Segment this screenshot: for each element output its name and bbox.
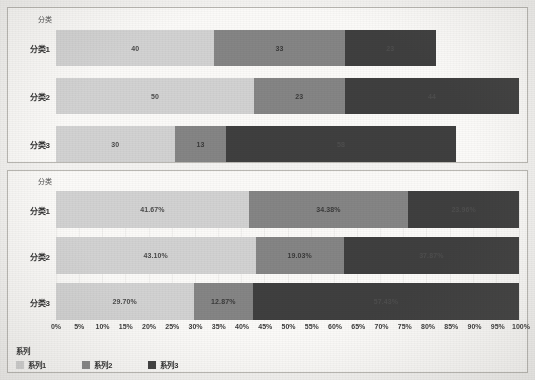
bar-segment-series1[interactable]: 43.10% xyxy=(56,237,256,274)
x-axis-tick: 35% xyxy=(212,323,226,330)
bar-segment-series3[interactable]: 23 xyxy=(345,30,436,66)
stacked-bar: 403323 xyxy=(56,30,436,66)
x-axis-tick: 30% xyxy=(188,323,202,330)
bar-row[interactable]: 分类1403323 xyxy=(56,30,519,66)
x-axis-tick: 75% xyxy=(398,323,412,330)
bar-segment-value: 50 xyxy=(151,93,159,100)
stacked-bar: 41.67%34.38%23.96% xyxy=(56,191,519,228)
bar-row[interactable]: 分类2502344 xyxy=(56,78,519,114)
plot-area-absolute: 分类1403323分类2502344分类3301358 xyxy=(56,30,519,156)
legend-swatch-icon xyxy=(148,361,156,369)
category-axis-title-top: 分类 xyxy=(38,14,53,24)
bar-segment-value: 40 xyxy=(131,45,139,52)
bar-segment-series2[interactable]: 23 xyxy=(254,78,345,114)
category-axis-title-bottom: 分类 xyxy=(38,176,53,186)
legend-label: 系列1 xyxy=(28,359,46,370)
bar-segment-value: 34.38% xyxy=(316,206,340,213)
legend-label: 系列3 xyxy=(160,359,178,370)
category-label: 分类1 xyxy=(10,205,50,216)
x-axis-tick: 70% xyxy=(374,323,388,330)
category-label: 分类3 xyxy=(10,139,50,150)
x-axis-tick: 50% xyxy=(281,323,295,330)
bar-segment-series2[interactable]: 12.87% xyxy=(194,283,254,320)
bar-segment-series3[interactable]: 44 xyxy=(345,78,519,114)
bar-segment-value: 23 xyxy=(386,45,394,52)
bar-segment-value: 33 xyxy=(276,45,284,52)
x-axis-tick: 25% xyxy=(165,323,179,330)
stacked-bar: 301358 xyxy=(56,126,456,162)
x-axis-tick: 40% xyxy=(235,323,249,330)
x-axis-tick: 5% xyxy=(74,323,84,330)
bar-row[interactable]: 分类329.70%12.87%57.43% xyxy=(56,283,519,320)
bar-segment-series2[interactable]: 19.03% xyxy=(256,237,344,274)
gridline xyxy=(519,191,520,321)
x-axis-tick: 85% xyxy=(444,323,458,330)
bar-segment-value: 23 xyxy=(295,93,303,100)
x-axis-ticks: 0%5%10%15%20%25%30%35%40%45%50%55%60%65%… xyxy=(8,323,527,337)
category-label: 分类2 xyxy=(10,251,50,262)
bar-segment-value: 37.87% xyxy=(419,252,443,259)
legend-item-series3[interactable]: 系列3 xyxy=(148,359,178,370)
bar-segment-series2[interactable]: 33 xyxy=(214,30,345,66)
legend-swatch-icon xyxy=(16,361,24,369)
bar-segment-value: 57.43% xyxy=(374,298,398,305)
bar-segment-value: 41.67% xyxy=(140,206,164,213)
legend-label: 系列2 xyxy=(94,359,112,370)
chart-panel-percent: 分类 分类141.67%34.38%23.96%分类243.10%19.03%3… xyxy=(7,170,528,373)
x-axis-tick: 55% xyxy=(305,323,319,330)
x-axis-tick: 10% xyxy=(95,323,109,330)
bar-segment-value: 30 xyxy=(111,141,119,148)
x-axis-tick: 80% xyxy=(421,323,435,330)
bar-row[interactable]: 分类243.10%19.03%37.87% xyxy=(56,237,519,274)
chart-panel-absolute: 分类 分类1403323分类2502344分类3301358 xyxy=(7,7,528,163)
category-label: 分类3 xyxy=(10,297,50,308)
category-label: 分类2 xyxy=(10,91,50,102)
bar-segment-value: 19.03% xyxy=(287,252,311,259)
x-axis-tick: 0% xyxy=(51,323,61,330)
x-axis-tick: 65% xyxy=(351,323,365,330)
x-axis-tick: 45% xyxy=(258,323,272,330)
bar-segment-series2[interactable]: 34.38% xyxy=(249,191,408,228)
bar-segment-value: 43.10% xyxy=(144,252,168,259)
bar-segment-series1[interactable]: 41.67% xyxy=(56,191,249,228)
bar-segment-value: 58 xyxy=(337,141,345,148)
bar-segment-series1[interactable]: 40 xyxy=(56,30,214,66)
bar-segment-series3[interactable]: 37.87% xyxy=(344,237,519,274)
bar-segment-value: 29.70% xyxy=(113,298,137,305)
bar-segment-value: 23.96% xyxy=(451,206,475,213)
bar-row[interactable]: 分类3301358 xyxy=(56,126,519,162)
legend-items: 系列1系列2系列3 xyxy=(16,359,215,370)
x-axis-tick: 20% xyxy=(142,323,156,330)
plot-area-percent: 分类141.67%34.38%23.96%分类243.10%19.03%37.8… xyxy=(56,191,519,321)
x-axis-tick: 95% xyxy=(491,323,505,330)
x-axis-tick: 100% xyxy=(512,323,530,330)
stacked-bar: 502344 xyxy=(56,78,519,114)
bar-segment-series1[interactable]: 50 xyxy=(56,78,254,114)
legend: 系列 系列1系列2系列3 xyxy=(16,345,215,370)
category-label: 分类1 xyxy=(10,43,50,54)
bar-segment-series3[interactable]: 23.96% xyxy=(408,191,519,228)
x-axis-tick: 60% xyxy=(328,323,342,330)
bar-segment-series3[interactable]: 57.43% xyxy=(253,283,519,320)
stacked-bar: 43.10%19.03%37.87% xyxy=(56,237,519,274)
bar-row[interactable]: 分类141.67%34.38%23.96% xyxy=(56,191,519,228)
bar-segment-series3[interactable]: 58 xyxy=(226,126,456,162)
x-axis-tick: 15% xyxy=(119,323,133,330)
legend-title: 系列 xyxy=(16,345,215,356)
legend-item-series2[interactable]: 系列2 xyxy=(82,359,112,370)
legend-item-series1[interactable]: 系列1 xyxy=(16,359,46,370)
bar-segment-series1[interactable]: 29.70% xyxy=(56,283,194,320)
legend-swatch-icon xyxy=(82,361,90,369)
x-axis-tick: 90% xyxy=(467,323,481,330)
bar-segment-value: 13 xyxy=(196,141,204,148)
bar-segment-series2[interactable]: 13 xyxy=(175,126,226,162)
bar-segment-value: 12.87% xyxy=(211,298,235,305)
bar-segment-series1[interactable]: 30 xyxy=(56,126,175,162)
bar-segment-value: 44 xyxy=(428,93,436,100)
stacked-bar: 29.70%12.87%57.43% xyxy=(56,283,519,320)
